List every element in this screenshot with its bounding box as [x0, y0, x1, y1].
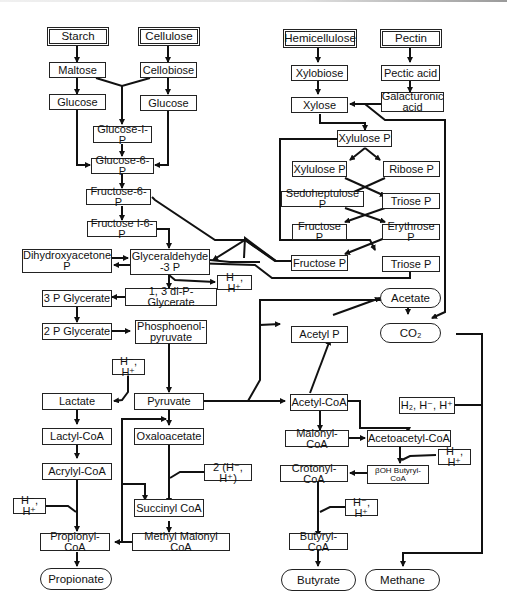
label: Fructose-6-P: [87, 186, 150, 208]
label: Xylulose P: [339, 133, 391, 144]
node-h2-pair: H₂, H⁻, H⁺: [399, 397, 455, 414]
node-erythrose-p: Erythrose P: [382, 224, 440, 240]
label: H⁻, H⁺: [346, 497, 377, 519]
node-fructose-16p: Fructose I-6-P: [87, 221, 157, 237]
label: 2 P Glycerate: [44, 326, 110, 337]
node-lactate: Lactate: [42, 393, 112, 410]
node-xylose: Xylose: [291, 97, 348, 113]
label: Xylulose P: [294, 164, 346, 175]
node-phosphoenolpyruvate: Phosphoenol- pyruvate: [135, 320, 207, 344]
node-maltose: Maltose: [49, 62, 106, 78]
label: Fructose I-6-P: [88, 218, 156, 240]
node-cellobiose: Cellobiose: [140, 62, 197, 78]
label: Glucose-I-P: [94, 124, 151, 146]
label: Oxaloacetate: [137, 431, 202, 442]
product-butyrate: Butyrate: [281, 569, 356, 591]
label: Propionyl-CoA: [41, 531, 109, 553]
label: Butyrate: [297, 575, 340, 586]
node-crotonyl-coa: Crotonyl-CoA: [280, 465, 348, 482]
label: Galacturonic acid: [382, 91, 444, 113]
label: 2 (H⁻, H⁺): [205, 462, 251, 484]
label: Cellobiose: [143, 65, 194, 76]
label: Acetyl-CoA: [291, 397, 346, 408]
label: Acetoacetyl-CoA: [368, 433, 450, 444]
label: H⁻, H⁺: [439, 446, 470, 468]
node-butyryl-coa: Butyryl-CoA: [289, 533, 348, 550]
node-glucose-6p: Glucose-6-P: [91, 158, 154, 174]
label: Methane: [380, 575, 425, 586]
node-triose-p-2: Triose P: [382, 256, 440, 272]
label: Hemicellulose: [284, 33, 356, 44]
label: Triose P: [391, 259, 432, 270]
label: Lactate: [59, 396, 95, 407]
label: Crotonyl-CoA: [281, 463, 347, 485]
label: Lactyl-CoA: [50, 431, 104, 442]
label: Dihydroxyacetone P: [23, 250, 111, 272]
label: Triose P: [391, 196, 432, 207]
node-fructose-p-1: Fructose P: [292, 224, 347, 240]
product-acetate: Acetate: [380, 288, 441, 308]
label: Fructose P: [293, 258, 346, 269]
node-h-pair-5: H⁻, H⁺: [345, 499, 378, 516]
node-succinyl-coa: Succinyl CoA: [134, 499, 204, 517]
label: Starch: [61, 31, 94, 42]
label: βOH Butyryl- CoA: [375, 467, 421, 483]
node-glyceraldehyde-3p: Glyceraldehyde -3 P: [130, 249, 210, 275]
label: Cellulose: [145, 31, 192, 42]
label: Glyceraldehyde -3 P: [132, 251, 208, 273]
node-h-pair-1: H⁻, H⁺: [217, 275, 252, 290]
label: 3 P Glycerate: [44, 293, 110, 304]
label: H₂, H⁻, H⁺: [401, 400, 453, 411]
node-glucose-right: Glucose: [140, 95, 197, 111]
node-xylobiose: Xylobiose: [291, 65, 348, 81]
label: Malonyl-CoA: [286, 428, 348, 450]
label: Phosphoenol- pyruvate: [137, 321, 205, 343]
node-glucose-1p: Glucose-I-P: [93, 126, 152, 143]
source-hemicellulose: Hemicellulose: [283, 29, 357, 48]
node-oxaloacetate: Oxaloacetate: [134, 428, 204, 445]
node-di-p-glycerate: 1, 3 di-P-Glycerate: [125, 288, 217, 306]
label: Ribose P: [389, 164, 434, 175]
label: Erythrose P: [383, 221, 439, 243]
node-dihydroxyacetone-p: Dihydroxyacetone P: [22, 249, 112, 273]
node-boh-butyryl-coa: βOH Butyryl- CoA: [367, 465, 429, 484]
node-lactyl-coa: Lactyl-CoA: [42, 428, 112, 445]
node-h-pair-3: H⁻, H⁺: [13, 498, 46, 514]
node-pectic-acid: Pectic acid: [381, 65, 440, 81]
label: Glucose: [148, 98, 188, 109]
label: Acetyl P: [299, 329, 339, 340]
node-ribose-p: Ribose P: [383, 161, 440, 177]
node-h-pair-4: H⁻, H⁺: [438, 449, 471, 465]
source-starch: Starch: [47, 27, 109, 46]
node-acetyl-coa: Acetyl-CoA: [290, 394, 348, 411]
node-galacturonic-acid: Galacturonic acid: [381, 92, 444, 112]
node-methyl-malonyl-coa: Methyl Malonyl CoA: [132, 533, 230, 551]
label: Xylobiose: [296, 68, 344, 79]
label: Pectic acid: [384, 68, 437, 79]
label: Fructose P: [293, 221, 346, 243]
label: Glucose: [57, 97, 97, 108]
label: Xylose: [303, 100, 336, 111]
label: Acrylyl-CoA: [48, 466, 105, 477]
label: Glucose-6-P: [92, 155, 153, 177]
label: H⁻, H⁺: [218, 272, 251, 294]
node-2p-glycerate: 2 P Glycerate: [42, 323, 112, 340]
product-methane: Methane: [365, 569, 440, 591]
label: Sedoheptulose P: [282, 188, 363, 210]
label: Succinyl CoA: [136, 503, 201, 514]
node-glucose-left: Glucose: [49, 94, 106, 110]
label: CO₂: [400, 328, 422, 339]
node-acetyl-p: Acetyl P: [291, 326, 348, 343]
label: 1, 3 di-P-Glycerate: [126, 286, 216, 308]
label: H⁻, H⁺: [14, 495, 45, 517]
label: H⁻, H⁺: [113, 356, 144, 378]
label: Maltose: [58, 65, 97, 76]
label: Propionate: [48, 574, 104, 585]
label: Pyruvate: [147, 396, 190, 407]
node-fructose-p-2: Fructose P: [291, 255, 348, 271]
node-acetoacetyl-coa: Acetoacetyl-CoA: [367, 430, 451, 447]
node-propionyl-coa: Propionyl-CoA: [40, 533, 110, 551]
node-3p-glycerate: 3 P Glycerate: [42, 290, 112, 307]
node-sedoheptulose-p: Sedoheptulose P: [281, 191, 364, 207]
label: Butyryl-CoA: [290, 531, 347, 553]
